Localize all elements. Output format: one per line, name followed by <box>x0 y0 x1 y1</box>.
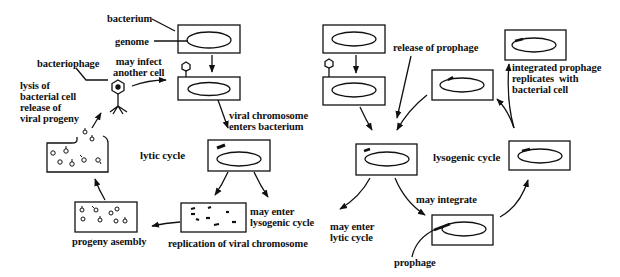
arrow <box>397 56 411 118</box>
bacteriophage-leader <box>76 68 108 80</box>
arrow <box>500 180 528 217</box>
prophage-cell <box>432 215 493 245</box>
label-may-integrate: may integrate <box>416 194 477 205</box>
arrow <box>254 172 268 197</box>
label-lysis: lysis of bacterial cell release of viral… <box>20 80 79 124</box>
label-prophage: prophage <box>394 257 436 268</box>
label-bacteriophage: bacteriophage <box>37 58 99 69</box>
title-lysogenic-cycle: lysogenic cycle <box>433 152 500 163</box>
integrated-prophage-cell <box>505 30 566 60</box>
bacterium-cell <box>178 25 240 53</box>
replication-cell <box>181 203 246 232</box>
label-may-enter-lysogenic: may enter lysogenic cycle <box>250 206 314 228</box>
label-may-infect: may infect another cell <box>113 56 164 78</box>
label-replication: replication of viral chromosome <box>168 238 308 249</box>
bacteriophage <box>110 80 127 114</box>
lysogenic-central-cell <box>356 144 417 175</box>
title-lytic-cycle: lytic cycle <box>140 150 185 161</box>
label-progeny-assembly: progeny asembly <box>72 236 146 247</box>
lysogenic-right-cell <box>509 141 570 170</box>
lysogenic-bacterium-cell <box>323 25 385 53</box>
bacterium-leader <box>152 19 175 31</box>
infected-cell <box>178 62 240 100</box>
label-may-enter-lytic: may enter lytic cycle <box>330 221 374 243</box>
label-genome: genome <box>115 36 149 47</box>
arrow <box>95 179 105 200</box>
cell-with-viral-chromosome <box>208 140 270 171</box>
arrow <box>340 178 370 209</box>
arrow <box>132 80 166 86</box>
label-bacterium: bacterium <box>107 13 152 24</box>
arrow <box>360 107 372 130</box>
label-integrated-prophage: integrated prophage replicates with bact… <box>512 62 601 95</box>
arrow <box>215 172 228 195</box>
lysogenic-infected-cell <box>323 59 385 105</box>
arrow <box>218 100 228 128</box>
progeny-assembly-cell <box>75 202 137 232</box>
label-release-of-prophage: release of prophage <box>393 42 478 53</box>
arrow <box>92 113 101 128</box>
arrow <box>497 99 514 128</box>
arrow <box>152 222 180 226</box>
lysing-cell <box>47 128 108 172</box>
label-viral-chromosome: viral chromosome enters bacterium <box>229 110 308 132</box>
cell-circular-chromosome <box>432 70 493 100</box>
